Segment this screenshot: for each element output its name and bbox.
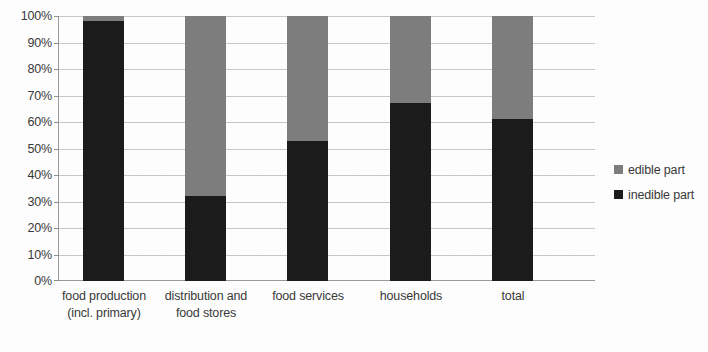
bar-segment-edible <box>287 16 328 141</box>
y-tick-40 <box>54 175 59 176</box>
bar-households <box>390 16 431 281</box>
x-tick-label-food-production: food production (incl. primary) <box>45 288 163 322</box>
bar-segment-edible <box>390 16 431 103</box>
y-tick-50 <box>54 149 59 150</box>
x-tick-line1: food production <box>62 289 146 303</box>
y-tick-10 <box>54 255 59 256</box>
bar-food-services <box>287 16 328 281</box>
y-tick-70 <box>54 96 59 97</box>
y-tick-label-40: 40% <box>6 169 52 181</box>
x-tick-line1: total <box>502 289 525 303</box>
x-tick-line2: food stores <box>147 305 265 322</box>
y-tick-label-70: 70% <box>6 90 52 102</box>
bar-food-production <box>83 16 124 281</box>
y-tick-80 <box>54 69 59 70</box>
legend-swatch-inedible-icon <box>614 190 623 199</box>
y-tick-label-100: 100% <box>6 10 52 22</box>
legend-item-edible-part: edible part <box>614 157 708 182</box>
y-tick-label-90: 90% <box>6 37 52 49</box>
bar-distribution-and-food-stores <box>185 16 226 281</box>
bar-segment-edible <box>185 16 226 196</box>
y-tick-label-80: 80% <box>6 63 52 75</box>
y-tick-90 <box>54 43 59 44</box>
bar-segment-inedible <box>83 21 124 281</box>
y-tick-label-20: 20% <box>6 222 52 234</box>
bar-segment-inedible <box>492 119 533 281</box>
legend-label-edible-part: edible part <box>628 163 685 177</box>
plot-area <box>58 16 595 281</box>
y-axis-labels: 100% 90% 80% 70% 60% 50% 40% 30% 20% 10%… <box>0 16 52 281</box>
x-tick-label-total: total <box>454 288 572 305</box>
y-tick-0 <box>54 280 59 281</box>
x-tick-label-food-services: food services <box>249 288 367 305</box>
y-tick-label-60: 60% <box>6 116 52 128</box>
y-tick-20 <box>54 228 59 229</box>
x-tick-label-households: households <box>352 288 470 305</box>
chart-legend: edible part inedible part <box>614 157 708 207</box>
bar-segment-inedible <box>287 141 328 281</box>
legend-swatch-edible-icon <box>614 165 623 174</box>
y-tick-label-10: 10% <box>6 249 52 261</box>
x-axis-labels: food production (incl. primary) distribu… <box>58 288 595 348</box>
y-tick-30 <box>54 202 59 203</box>
bar-segment-inedible <box>185 196 226 281</box>
stacked-bar-chart: 100% 90% 80% 70% 60% 50% 40% 30% 20% 10%… <box>0 0 708 352</box>
y-tick-label-0: 0% <box>6 275 52 287</box>
y-tick-60 <box>54 122 59 123</box>
legend-item-inedible-part: inedible part <box>614 182 708 207</box>
bar-segment-inedible <box>390 103 431 281</box>
y-tick-label-30: 30% <box>6 196 52 208</box>
x-tick-line1: households <box>380 289 442 303</box>
y-tick-100 <box>54 16 59 17</box>
bar-segment-edible <box>492 16 533 119</box>
bar-total <box>492 16 533 281</box>
x-tick-line1: distribution and <box>165 289 247 303</box>
y-tick-label-50: 50% <box>6 143 52 155</box>
x-tick-label-distribution-and-food-stores: distribution and food stores <box>147 288 265 322</box>
x-tick-line1: food services <box>272 289 344 303</box>
x-tick-line2: (incl. primary) <box>45 305 163 322</box>
legend-label-inedible-part: inedible part <box>628 188 694 202</box>
